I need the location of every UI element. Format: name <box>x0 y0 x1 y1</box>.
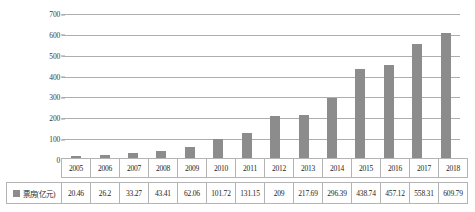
bar-cell-2010 <box>204 14 232 160</box>
bar-cell-2017 <box>403 14 431 160</box>
y-tick-label-600: 600 <box>30 30 60 39</box>
bar-2016 <box>384 65 394 160</box>
bar-cell-2018 <box>431 14 459 160</box>
bar-cell-2005 <box>62 14 90 160</box>
bar-2012 <box>270 116 280 160</box>
legend-swatch-icon <box>13 190 20 197</box>
table-row-values: 票房(亿元) 20.4626.233.2743.4162.06101.72131… <box>6 182 468 204</box>
bar-cell-2013 <box>289 14 317 160</box>
bar-cell-2012 <box>261 14 289 160</box>
value-cell-2016: 457.12 <box>380 182 410 204</box>
y-tick-label-400: 400 <box>30 72 60 81</box>
box-office-bar-chart: 7006005004003002001000 20052006200720082… <box>0 0 475 212</box>
bar-2017 <box>412 44 422 160</box>
bar-cell-2015 <box>346 14 374 160</box>
year-cell-2007: 2007 <box>119 158 149 178</box>
bar-cell-2006 <box>90 14 118 160</box>
bar-2015 <box>355 69 365 161</box>
plot-area: 7006005004003002001000 <box>0 0 475 166</box>
bar-cell-2008 <box>147 14 175 160</box>
y-tick-label-700: 700 <box>30 10 60 19</box>
value-cell-2005: 20.46 <box>61 182 91 204</box>
year-cell-2006: 2006 <box>90 158 120 178</box>
bar-cell-2011 <box>233 14 261 160</box>
bar-cell-2009 <box>176 14 204 160</box>
y-tick-label-200: 200 <box>30 114 60 123</box>
year-cell-2015: 2015 <box>351 158 381 178</box>
series-legend-cell: 票房(亿元) <box>6 182 62 204</box>
value-cell-2006: 26.2 <box>90 182 120 204</box>
bar-cell-2016 <box>375 14 403 160</box>
year-cell-2016: 2016 <box>380 158 410 178</box>
value-cell-2018: 609.79 <box>438 182 468 204</box>
year-cell-2014: 2014 <box>322 158 352 178</box>
bar-2013 <box>299 115 309 160</box>
value-cell-2008: 43.41 <box>148 182 178 204</box>
bar-series <box>62 14 460 160</box>
value-cell-2007: 33.27 <box>119 182 149 204</box>
data-table: 2005200620072008200920102011201220132014… <box>6 158 468 204</box>
bar-cell-2014 <box>318 14 346 160</box>
table-row-years: 2005200620072008200920102011201220132014… <box>6 158 468 180</box>
value-cell-2010: 101.72 <box>206 182 236 204</box>
year-cell-2011: 2011 <box>235 158 265 178</box>
value-cell-2013: 217.69 <box>293 182 323 204</box>
bar-2010 <box>213 139 223 160</box>
year-cell-2009: 2009 <box>177 158 207 178</box>
year-cell-2005: 2005 <box>61 158 91 178</box>
value-cell-2015: 438.74 <box>351 182 381 204</box>
bar-2014 <box>327 98 337 160</box>
value-cell-2017: 558.31 <box>409 182 439 204</box>
year-cell-2018: 2018 <box>438 158 468 178</box>
year-cell-2010: 2010 <box>206 158 236 178</box>
year-cell-2012: 2012 <box>264 158 294 178</box>
bar-2018 <box>441 33 451 160</box>
y-tick-label-300: 300 <box>30 93 60 102</box>
value-cell-2011: 131.15 <box>235 182 265 204</box>
y-tick-label-100: 100 <box>30 135 60 144</box>
value-cell-2012: 209 <box>264 182 294 204</box>
bar-2011 <box>242 133 252 160</box>
year-cell-2017: 2017 <box>409 158 439 178</box>
y-tick-label-500: 500 <box>30 51 60 60</box>
value-cell-2009: 62.06 <box>177 182 207 204</box>
bar-cell-2007 <box>119 14 147 160</box>
year-cell-2013: 2013 <box>293 158 323 178</box>
value-cell-2014: 296.39 <box>322 182 352 204</box>
y-axis-tick-labels: 7006005004003002001000 <box>30 14 60 160</box>
series-label: 票房(亿元) <box>23 188 56 199</box>
year-cell-2008: 2008 <box>148 158 178 178</box>
table-corner-blank <box>6 158 62 180</box>
